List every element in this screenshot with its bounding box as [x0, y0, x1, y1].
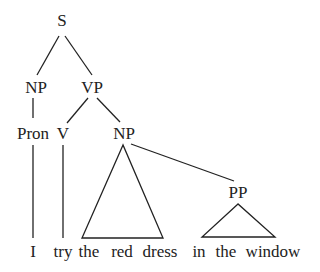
node-vp: VP: [81, 79, 103, 96]
word-red: red: [111, 243, 133, 260]
edge-s-np: [37, 36, 59, 75]
edge-vp-v: [67, 98, 88, 123]
node-pron: Pron: [17, 125, 49, 142]
word-the: the: [79, 243, 100, 260]
edge-np-pp: [131, 144, 234, 181]
word-try: try: [54, 243, 73, 260]
edge-vp-np: [97, 98, 120, 122]
word-i: I: [30, 243, 36, 260]
word-dress: dress: [143, 243, 178, 260]
node-np-object: NP: [113, 125, 135, 142]
node-np-subject: NP: [25, 79, 47, 96]
edge-s-vp: [65, 36, 92, 75]
word-window: window: [246, 243, 301, 260]
word-the-2: the: [216, 243, 237, 260]
node-pp: PP: [229, 184, 248, 201]
triangle-pp: [202, 204, 275, 237]
node-s: S: [57, 12, 66, 29]
node-v: V: [57, 125, 69, 142]
word-in: in: [192, 243, 205, 260]
triangle-np-obj: [82, 145, 163, 238]
